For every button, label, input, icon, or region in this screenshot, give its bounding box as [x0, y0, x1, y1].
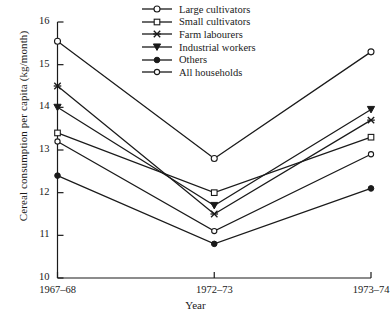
legend-label: Others [174, 54, 207, 65]
series-line [58, 133, 372, 193]
legend-marker-down-triangle-icon [140, 41, 174, 53]
legend-key-marker [154, 6, 160, 12]
x-tick-label: 1973–74 [336, 284, 391, 295]
legend-item-others[interactable]: Others [140, 53, 256, 66]
y-axis-title: Cereal consumption per capita (kg/month) [17, 11, 29, 241]
legend-item-large-cultivators[interactable]: Large cultivators [140, 3, 256, 16]
y-tick-marks [58, 22, 64, 278]
data-point-marker [211, 202, 218, 208]
y-tick-label: 13 [26, 143, 50, 154]
y-tick-label: 16 [26, 15, 50, 26]
x-tick-label: 1967–68 [23, 284, 93, 295]
data-point-marker [368, 186, 374, 192]
legend-label: All households [174, 67, 242, 78]
legend-label: Small cultivators [174, 16, 250, 27]
data-point-marker [55, 130, 61, 136]
y-tick-label: 11 [26, 228, 50, 239]
data-point-marker [212, 228, 217, 233]
data-point-marker [55, 173, 61, 179]
cereal-consumption-line-chart: 10111213141516 1967–681972–731973–74 Cer… [0, 0, 391, 316]
y-tick-label: 12 [26, 186, 50, 197]
data-point-marker [368, 152, 373, 157]
legend-marker-cross-star-icon [140, 28, 174, 40]
y-tick-label: 14 [26, 100, 50, 111]
legend-label: Farm labourers [174, 29, 243, 40]
series-line [58, 141, 372, 231]
legend-marker-filled-circle-icon [140, 54, 174, 66]
y-tick-label: 10 [26, 271, 50, 282]
legend-label: Industrial workers [174, 42, 256, 53]
legend-item-small-cultivators[interactable]: Small cultivators [140, 16, 256, 29]
x-tick-label: 1972–73 [179, 284, 249, 295]
legend-label: Large cultivators [174, 4, 250, 15]
series-small-cultivators [55, 130, 374, 195]
legend-marker-open-circle-icon [140, 3, 174, 15]
data-point-marker [368, 134, 374, 140]
data-point-marker [211, 190, 217, 196]
data-point-marker [55, 139, 60, 144]
legend-key-marker [154, 19, 160, 25]
legend-key-marker [154, 57, 160, 63]
legend-key-marker [154, 70, 159, 75]
x-tick-marks [58, 272, 372, 278]
x-axis-title: Year [0, 299, 391, 311]
legend: Large cultivatorsSmall cultivatorsFarm l… [140, 3, 256, 79]
legend-item-all-households[interactable]: All households [140, 66, 256, 79]
data-point-marker [211, 156, 217, 162]
legend-item-industrial-workers[interactable]: Industrial workers [140, 41, 256, 54]
data-point-marker [55, 38, 61, 44]
legend-marker-open-circle-sm-icon [140, 66, 174, 78]
data-point-marker [367, 106, 374, 112]
legend-item-farm-labourers[interactable]: Farm labourers [140, 28, 256, 41]
data-point-marker [211, 241, 217, 247]
data-point-marker [368, 49, 374, 55]
legend-marker-open-square-icon [140, 16, 174, 28]
y-tick-label: 15 [26, 58, 50, 69]
